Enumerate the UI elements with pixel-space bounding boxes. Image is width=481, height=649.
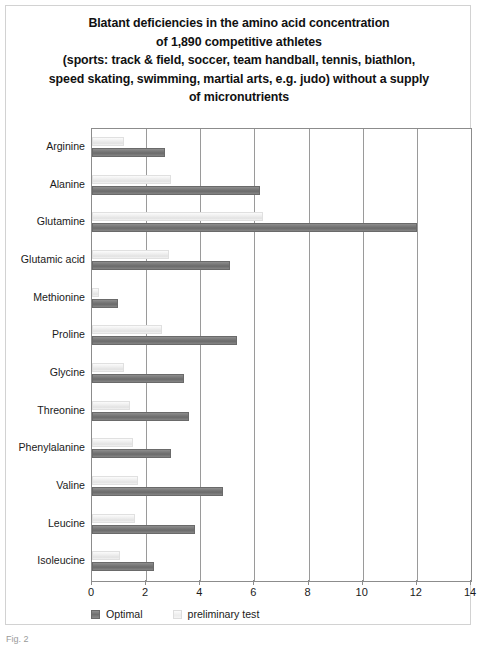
x-tick-label-0: 0 <box>88 586 94 598</box>
bar-preliminary-test[interactable] <box>92 438 133 447</box>
y-axis-label: Methionine <box>7 291 91 303</box>
x-tick-mark-2 <box>145 580 146 585</box>
bar-optimal[interactable] <box>92 525 195 534</box>
bar-optimal[interactable] <box>92 299 118 308</box>
chart-title: Blatant deficiencies in the amino acid c… <box>16 14 462 107</box>
x-tick-mark-4 <box>199 580 200 585</box>
bar-optimal[interactable] <box>92 261 230 270</box>
bar-row <box>92 393 471 431</box>
x-tick-label-6: 6 <box>250 586 256 598</box>
bar-preliminary-test[interactable] <box>92 137 124 146</box>
bar-optimal[interactable] <box>92 223 417 232</box>
y-axis-label: Isoleucine <box>7 554 91 566</box>
y-axis-label: Proline <box>7 328 91 340</box>
bar-preliminary-test[interactable] <box>92 325 162 334</box>
x-tick-mark-0 <box>91 580 92 585</box>
legend-item[interactable]: Optimal <box>91 608 143 620</box>
bar-row <box>92 506 471 544</box>
x-tick-mark-8 <box>308 580 309 585</box>
legend-swatch-icon <box>173 610 182 619</box>
legend-label: preliminary test <box>188 608 260 620</box>
y-axis-label: Glycine <box>7 366 91 378</box>
bar-optimal[interactable] <box>92 186 260 195</box>
y-axis-label: Alanine <box>7 178 91 190</box>
bar-optimal[interactable] <box>92 148 165 157</box>
bar-preliminary-test[interactable] <box>92 250 169 259</box>
x-tick-label-8: 8 <box>305 586 311 598</box>
x-tick-mark-14 <box>470 580 471 585</box>
bar-preliminary-test[interactable] <box>92 175 171 184</box>
plot-area <box>91 128 472 582</box>
bar-row <box>92 543 471 581</box>
bar-preliminary-test[interactable] <box>92 476 138 485</box>
y-axis-label: Glutamic acid <box>7 253 91 265</box>
bar-preliminary-test[interactable] <box>92 212 263 221</box>
y-axis-label: Threonine <box>7 404 91 416</box>
legend-label: Optimal <box>106 608 143 620</box>
bar-row <box>92 129 471 167</box>
figure-caption: Fig. 2 <box>6 634 29 644</box>
x-tick-label-12: 12 <box>410 586 422 598</box>
legend-item[interactable]: preliminary test <box>173 608 260 620</box>
bar-optimal[interactable] <box>92 487 223 496</box>
legend-swatch-icon <box>91 610 100 619</box>
bar-row <box>92 430 471 468</box>
bar-optimal[interactable] <box>92 374 184 383</box>
y-axis-label: Phenylalanine <box>7 441 91 453</box>
x-tick-label-14: 14 <box>464 586 476 598</box>
y-axis-label: Leucine <box>7 517 91 529</box>
chart-title-line-4: speed skating, swimming, martial arts, e… <box>16 70 462 89</box>
y-axis-label: Glutamine <box>7 215 91 227</box>
bar-optimal[interactable] <box>92 336 237 345</box>
x-tick-mark-12 <box>416 580 417 585</box>
bar-preliminary-test[interactable] <box>92 551 120 560</box>
bar-row <box>92 242 471 280</box>
bar-row <box>92 317 471 355</box>
x-tick-label-10: 10 <box>356 586 368 598</box>
x-tick-mark-6 <box>253 580 254 585</box>
bar-row <box>92 355 471 393</box>
bar-optimal[interactable] <box>92 562 154 571</box>
bar-preliminary-test[interactable] <box>92 363 124 372</box>
x-tick-label-2: 2 <box>142 586 148 598</box>
bar-row <box>92 167 471 205</box>
x-tick-label-4: 4 <box>196 586 202 598</box>
chart-title-line-5: of micronutrients <box>16 88 462 107</box>
bar-optimal[interactable] <box>92 412 189 421</box>
bar-preliminary-test[interactable] <box>92 401 130 410</box>
chart-title-line-1: Blatant deficiencies in the amino acid c… <box>16 14 462 33</box>
chart-title-line-3: (sports: track & field, soccer, team han… <box>16 51 462 70</box>
figure-frame: Blatant deficiencies in the amino acid c… <box>5 5 471 625</box>
bar-preliminary-test[interactable] <box>92 288 99 297</box>
bar-row <box>92 468 471 506</box>
x-tick-mark-10 <box>362 580 363 585</box>
chart-title-line-2: of 1,890 competitive athletes <box>16 33 462 52</box>
bar-row <box>92 204 471 242</box>
y-axis-label: Arginine <box>7 140 91 152</box>
y-axis-labels: ArginineAlanineGlutamineGlutamic acidMet… <box>6 128 91 580</box>
bar-row <box>92 280 471 318</box>
chart-legend: Optimalpreliminary test <box>91 608 259 620</box>
bar-preliminary-test[interactable] <box>92 514 135 523</box>
x-axis-ticks: 02468101214 <box>91 580 472 604</box>
bar-optimal[interactable] <box>92 449 171 458</box>
y-axis-label: Valine <box>7 479 91 491</box>
